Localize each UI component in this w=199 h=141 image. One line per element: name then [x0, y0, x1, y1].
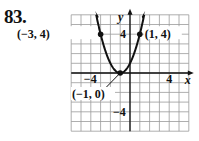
- y-axis-label: y: [116, 10, 124, 24]
- y-tick-label: 4: [120, 27, 126, 41]
- x-tick-label: −4: [84, 72, 97, 86]
- leader-line: [106, 73, 121, 88]
- x-axis-label: x: [184, 73, 191, 87]
- parabola-graph: xy−444−4(−3, 4)(1, 4)(−1, 0): [0, 0, 199, 141]
- y-axis-arrow-icon: [128, 9, 133, 15]
- point-label: (1, 4): [145, 27, 171, 41]
- data-point: [137, 31, 143, 37]
- x-tick-label: 4: [166, 72, 172, 86]
- point-label: (−3, 4): [17, 27, 50, 41]
- y-tick-label: −4: [113, 105, 126, 119]
- point-label: (−1, 0): [72, 87, 105, 101]
- data-point: [98, 31, 104, 37]
